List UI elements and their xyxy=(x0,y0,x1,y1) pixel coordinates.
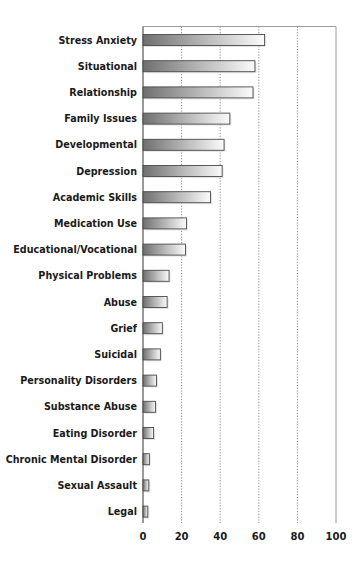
plot-frame xyxy=(143,27,336,524)
gridlines xyxy=(182,27,298,524)
bar xyxy=(143,244,185,255)
category-label: Situational xyxy=(78,61,137,72)
category-label: Developmental xyxy=(55,139,137,150)
bar xyxy=(143,428,154,439)
category-label: Substance Abuse xyxy=(44,401,138,412)
category-label: Physical Problems xyxy=(38,270,137,281)
category-label: Eating Disorder xyxy=(53,428,138,439)
bar xyxy=(143,349,160,360)
x-tick-label: 80 xyxy=(290,531,304,542)
bar xyxy=(143,35,265,46)
bar xyxy=(143,166,222,177)
bars xyxy=(143,35,266,519)
category-label: Academic Skills xyxy=(53,192,137,203)
category-label: Personality Disorders xyxy=(20,375,137,386)
bar xyxy=(143,139,224,150)
x-tick-label: 0 xyxy=(140,531,147,542)
x-tick-labels: 020406080100 xyxy=(140,531,347,542)
bar xyxy=(143,113,230,124)
category-label: Suicidal xyxy=(94,349,137,360)
category-label: Abuse xyxy=(104,297,138,308)
bar xyxy=(143,270,169,281)
x-tick-label: 20 xyxy=(175,531,189,542)
bar xyxy=(143,480,149,491)
category-labels: Stress AnxietySituationalRelationshipFam… xyxy=(6,35,138,518)
bar xyxy=(143,87,253,98)
category-label: Educational/Vocational xyxy=(13,244,137,255)
category-label: Legal xyxy=(108,506,137,517)
category-label: Medication Use xyxy=(54,218,138,229)
category-label: Depression xyxy=(76,166,137,177)
bar xyxy=(143,454,149,465)
bar xyxy=(143,323,162,334)
bar-chart: Stress AnxietySituationalRelationshipFam… xyxy=(0,0,361,564)
bar xyxy=(143,61,255,72)
bar xyxy=(143,506,148,517)
bar xyxy=(143,192,211,203)
x-tick-label: 100 xyxy=(326,531,347,542)
bar xyxy=(143,401,156,412)
x-tick-label: 60 xyxy=(252,531,266,542)
category-label: Chronic Mental Disorder xyxy=(6,454,138,465)
category-label: Grief xyxy=(110,323,137,334)
category-label: Family Issues xyxy=(64,113,137,124)
bar xyxy=(143,297,167,308)
bar xyxy=(143,218,186,229)
bar xyxy=(143,375,157,386)
category-label: Sexual Assault xyxy=(57,480,137,491)
category-label: Relationship xyxy=(69,87,137,98)
x-tick-label: 40 xyxy=(213,531,227,542)
category-label: Stress Anxiety xyxy=(58,35,137,46)
